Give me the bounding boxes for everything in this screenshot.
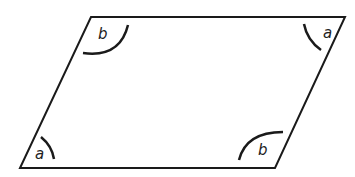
angle-arc-top-right: [304, 24, 321, 50]
parallelogram: [20, 17, 345, 168]
angle-label-bottom-right: b: [258, 141, 268, 159]
angle-label-top-right: a: [323, 24, 332, 42]
parallelogram-diagram: b a a b: [0, 0, 355, 177]
angle-label-top-left: b: [98, 25, 108, 43]
angle-label-bottom-left: a: [35, 145, 44, 163]
